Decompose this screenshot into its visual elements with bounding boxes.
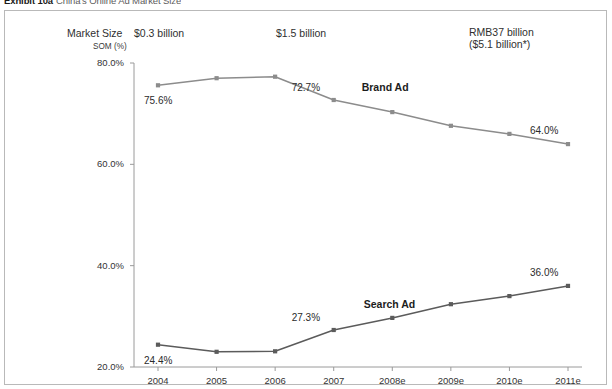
chart-plot-area: 20.0%40.0%60.0%80.0%20042005200620072008… — [0, 0, 612, 389]
data-point-marker — [566, 142, 570, 146]
series-label-search-ad: Search Ad — [364, 298, 416, 310]
data-point-marker — [449, 124, 453, 128]
data-point-marker — [332, 328, 336, 332]
data-point-marker — [215, 76, 219, 80]
data-point-marker — [390, 110, 394, 114]
y-axis-tick-label: 40.0% — [78, 260, 124, 271]
data-point-marker — [449, 302, 453, 306]
data-point-label: 36.0% — [530, 267, 558, 278]
data-point-marker — [273, 75, 277, 79]
data-point-marker — [507, 294, 511, 298]
y-axis-tick-label: 60.0% — [78, 158, 124, 169]
y-axis-tick-label: 80.0% — [78, 57, 124, 68]
data-point-label: 64.0% — [530, 125, 558, 136]
data-point-marker — [156, 83, 160, 87]
data-point-marker — [390, 316, 394, 320]
data-point-label: 72.7% — [292, 82, 320, 93]
data-point-marker — [332, 98, 336, 102]
x-axis-tick-label: 2004 — [131, 375, 185, 386]
data-point-marker — [215, 350, 219, 354]
x-axis-tick-label: 2010e — [482, 375, 536, 386]
x-axis-tick-label: 2007 — [307, 375, 361, 386]
data-point-marker — [273, 349, 277, 353]
data-point-marker — [507, 132, 511, 136]
series-label-brand-ad: Brand Ad — [362, 81, 409, 93]
x-axis-tick-label: 2008e — [365, 375, 419, 386]
y-axis-tick-label: 20.0% — [78, 361, 124, 372]
data-point-label: 75.6% — [144, 95, 172, 106]
x-axis-tick-label: 2011e — [541, 375, 595, 386]
x-axis-tick-label: 2006 — [248, 375, 302, 386]
series-line-search-ad — [158, 286, 568, 352]
data-point-label: 27.3% — [292, 312, 320, 323]
x-axis-tick-label: 2009e — [424, 375, 478, 386]
x-axis-tick-label: 2005 — [190, 375, 244, 386]
data-point-marker — [566, 284, 570, 288]
data-point-label: 24.4% — [144, 355, 172, 366]
data-point-marker — [156, 343, 160, 347]
